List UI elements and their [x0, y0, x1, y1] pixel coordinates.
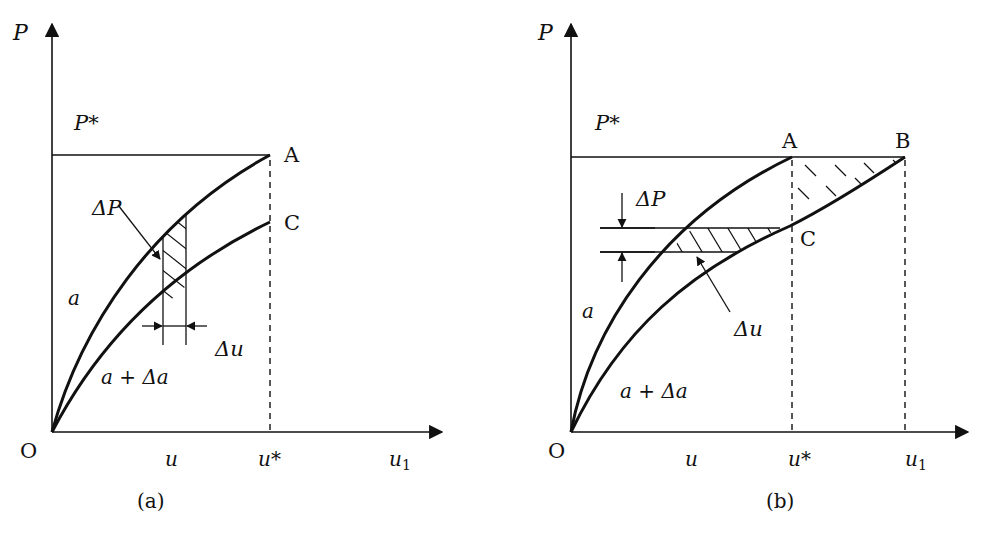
delta-u-label: Δu — [214, 337, 244, 361]
x-tick-u-star: u* — [258, 447, 281, 471]
point-C-label: C — [284, 211, 300, 235]
point-A-label: A — [283, 143, 300, 167]
curve-a-label: a — [582, 299, 594, 323]
curve-a-label: a — [68, 286, 80, 310]
x-tick-u: u — [685, 447, 698, 471]
load-level-label: P* — [73, 111, 99, 135]
delta-P-label: ΔP — [635, 187, 666, 211]
dp-pointer-arrow — [118, 205, 160, 259]
delta-u-label: Δu — [733, 317, 763, 341]
curve-a-plus-da-label: a + Δa — [101, 365, 169, 389]
hatched-region-a — [150, 200, 200, 320]
caption-a: (a) — [137, 489, 165, 513]
panel-a: P P* A C ΔP Δu a a + Δa O u u* u1 (a) — [12, 20, 442, 513]
figure-canvas: P P* A C ΔP Δu a a + Δa O u u* u1 (a) — [0, 0, 987, 533]
y-axis-label: P — [12, 20, 29, 45]
x-axis-label: u1 — [905, 447, 927, 473]
x-axis-label: u1 — [389, 447, 411, 473]
load-level-label: P* — [594, 111, 620, 135]
x-tick-u-star: u* — [788, 447, 811, 471]
origin-label: O — [548, 439, 565, 463]
y-axis-label: P — [537, 20, 554, 45]
curve-a-plus-da-label: a + Δa — [620, 379, 688, 403]
panel-b: P P* A B C ΔP Δu a a + Δa O u u* u1 (b) — [537, 20, 968, 513]
hatched-strip-b — [660, 215, 790, 265]
delta-P-label: ΔP — [91, 196, 122, 220]
point-C-label: C — [800, 227, 816, 251]
x-tick-u: u — [165, 447, 178, 471]
point-A-label: A — [781, 129, 798, 153]
point-B-label: B — [895, 129, 910, 153]
caption-b: (b) — [766, 489, 794, 513]
curve-a-plus-da — [52, 222, 270, 432]
origin-label: O — [20, 439, 37, 463]
